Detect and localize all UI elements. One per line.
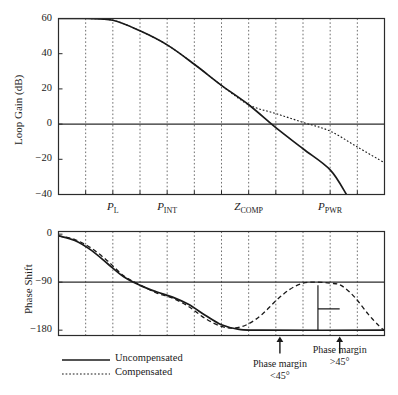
xtick-subscript: INT bbox=[164, 206, 177, 215]
phase-ytick-neg180: −180 bbox=[8, 323, 52, 334]
xtick-p-int: PINT bbox=[127, 200, 207, 215]
xtick-symbol: P bbox=[107, 200, 114, 212]
phase-margin-low-label-line2: <45° bbox=[230, 370, 330, 382]
gain-ytick-0: 0 bbox=[14, 117, 52, 128]
legend-label-compensated: Compensated bbox=[115, 366, 172, 377]
xtick-p-pwr: PPWR bbox=[290, 200, 370, 215]
bode-plot-figure: Loop Gain (dB) Phase Shift 6040200−20−40… bbox=[0, 0, 398, 395]
gain-ytick-40: 40 bbox=[14, 47, 52, 58]
legend-label-uncompensated: Uncompensated bbox=[115, 352, 183, 363]
gain-ytick-neg20: −20 bbox=[14, 152, 52, 163]
xtick-z-comp: ZCOMP bbox=[209, 200, 289, 215]
phase-ytick-0: 0 bbox=[8, 227, 52, 238]
phase-axis-title: Phase Shift bbox=[22, 264, 34, 314]
xtick-subscript: COMP bbox=[240, 206, 263, 215]
gain-ytick-60: 60 bbox=[14, 12, 52, 23]
xtick-subscript: PWR bbox=[325, 206, 342, 215]
xtick-subscript: L bbox=[114, 206, 119, 215]
plot-canvas bbox=[0, 0, 398, 395]
phase-margin-high-label: Phase margin>45° bbox=[290, 344, 390, 368]
gain-ytick-neg40: −40 bbox=[14, 188, 52, 199]
xtick-symbol: P bbox=[157, 200, 164, 212]
phase-margin-high-label-line2: >45° bbox=[290, 356, 390, 368]
xtick-symbol: P bbox=[318, 200, 325, 212]
gain-ytick-20: 20 bbox=[14, 82, 52, 93]
phase-margin-high-label-line1: Phase margin bbox=[290, 344, 390, 356]
phase-ytick-neg90: −90 bbox=[8, 275, 52, 286]
